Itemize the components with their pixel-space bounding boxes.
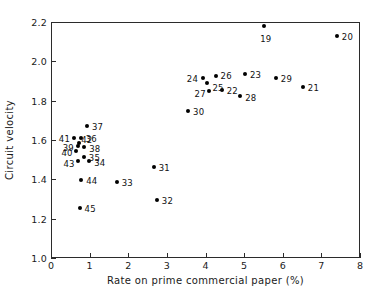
data-point-37 bbox=[85, 124, 89, 128]
data-point-43 bbox=[76, 159, 80, 163]
data-point-label-28: 28 bbox=[245, 93, 256, 103]
y-tick-label-2.0: 2.0 bbox=[31, 56, 47, 67]
data-point-label-20: 20 bbox=[342, 32, 353, 42]
x-tick-label-4: 4 bbox=[202, 260, 208, 271]
data-point-41 bbox=[72, 136, 76, 140]
data-point-38 bbox=[82, 145, 86, 149]
data-point-label-25: 25 bbox=[212, 83, 223, 93]
y-tick-label-1.6: 1.6 bbox=[31, 135, 47, 146]
data-point-label-30: 30 bbox=[193, 107, 204, 117]
data-point-label-32: 32 bbox=[162, 196, 173, 206]
data-point-label-44: 44 bbox=[86, 176, 97, 186]
data-point-label-26: 26 bbox=[221, 71, 232, 81]
scatter-plot-figure: 1920212223242526272829303132333435363738… bbox=[0, 0, 383, 297]
data-point-29 bbox=[274, 76, 278, 80]
data-point-label-24: 24 bbox=[187, 74, 198, 84]
data-point-label-19: 19 bbox=[260, 34, 271, 44]
x-tick-label-1: 1 bbox=[87, 260, 93, 271]
data-point-label-29: 29 bbox=[281, 74, 292, 84]
data-point-27 bbox=[207, 89, 211, 93]
data-point-label-43: 43 bbox=[63, 159, 74, 169]
x-axis-label: Rate on prime commercial paper (%) bbox=[51, 275, 360, 286]
y-tick-label-1.0: 1.0 bbox=[31, 253, 47, 264]
data-point-30 bbox=[186, 109, 190, 113]
data-point-35 bbox=[82, 155, 86, 159]
y-tick-1.0 bbox=[51, 258, 56, 259]
x-tick-label-7: 7 bbox=[318, 260, 324, 271]
x-tick-label-3: 3 bbox=[164, 260, 170, 271]
data-point-20 bbox=[335, 34, 339, 38]
data-point-label-23: 23 bbox=[250, 70, 261, 80]
x-tick-label-2: 2 bbox=[125, 260, 131, 271]
data-point-label-33: 33 bbox=[122, 178, 133, 188]
x-tick-label-6: 6 bbox=[280, 260, 286, 271]
data-point-label-45: 45 bbox=[85, 204, 96, 214]
y-tick-label-2.2: 2.2 bbox=[31, 17, 47, 28]
data-point-label-37: 37 bbox=[92, 122, 103, 132]
y-tick-label-1.4: 1.4 bbox=[31, 174, 47, 185]
data-point-45 bbox=[78, 206, 82, 210]
data-point-23 bbox=[243, 72, 247, 76]
data-point-21 bbox=[301, 85, 305, 89]
data-point-44 bbox=[79, 178, 83, 182]
data-point-label-41: 41 bbox=[59, 134, 70, 144]
data-point-31 bbox=[152, 165, 156, 169]
data-point-24 bbox=[201, 76, 205, 80]
y-tick-label-1.8: 1.8 bbox=[31, 95, 47, 106]
data-point-label-21: 21 bbox=[308, 83, 319, 93]
x-tick-8 bbox=[360, 253, 361, 258]
plot-data-area: 1920212223242526272829303132333435363738… bbox=[51, 22, 360, 258]
data-point-label-22: 22 bbox=[227, 86, 238, 96]
data-point-28 bbox=[238, 94, 242, 98]
y-tick-label-1.2: 1.2 bbox=[31, 213, 47, 224]
x-tick-label-5: 5 bbox=[241, 260, 247, 271]
data-point-label-27: 27 bbox=[195, 89, 206, 99]
x-tick-label-8: 8 bbox=[357, 260, 363, 271]
data-point-33 bbox=[115, 180, 119, 184]
data-point-32 bbox=[155, 198, 159, 202]
data-point-25 bbox=[205, 81, 209, 85]
data-point-label-35: 35 bbox=[89, 153, 100, 163]
data-point-label-42: 42 bbox=[81, 135, 92, 145]
data-point-26 bbox=[214, 74, 218, 78]
data-point-40 bbox=[74, 149, 78, 153]
data-point-label-40: 40 bbox=[61, 148, 72, 158]
data-point-label-38: 38 bbox=[89, 144, 100, 154]
x-tick-label-0: 0 bbox=[48, 260, 54, 271]
y-axis-label: Circuit velocity bbox=[4, 100, 15, 180]
data-point-label-31: 31 bbox=[159, 163, 170, 173]
data-point-19 bbox=[262, 24, 266, 28]
